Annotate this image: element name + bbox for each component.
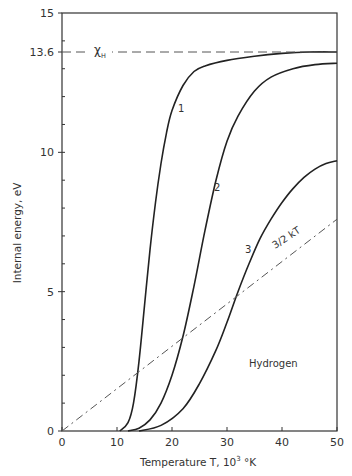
x-axis-label: Temperature T, 103 °K: [139, 455, 257, 468]
y-tick-label: 13.6: [30, 46, 55, 59]
curve-2-label: 2: [214, 182, 220, 193]
y-axis-label: Internal energy, eV: [11, 182, 23, 284]
x-tick-label: 0: [59, 436, 66, 449]
series-3-2-kt-line: [62, 219, 337, 431]
kt-line-label: 3/2 kT: [270, 224, 303, 251]
curve-1-label: 1: [178, 103, 184, 114]
x-tick-label: 20: [165, 436, 179, 449]
hydrogen-label: Hydrogen: [249, 358, 298, 369]
x-tick-label: 30: [220, 436, 234, 449]
internal-energy-chart: 01020304050051013.615 Internal energy, e…: [0, 0, 352, 476]
series-2-line: [128, 63, 337, 431]
y-tick-label: 0: [47, 425, 54, 438]
y-tick-label: 5: [47, 286, 54, 299]
x-tick-label: 50: [330, 436, 344, 449]
x-tick-label: 10: [110, 436, 124, 449]
y-tick-label: 15: [40, 7, 54, 20]
x-tick-label: 40: [275, 436, 289, 449]
series-1-line: [120, 52, 337, 431]
y-tick-label: 10: [40, 146, 54, 159]
curve-3-label: 3: [245, 244, 251, 255]
